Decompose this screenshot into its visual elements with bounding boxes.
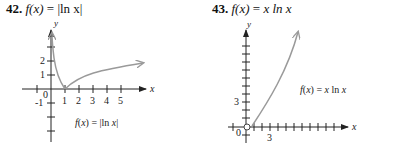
graph-43: y x 3 0 3 f(x) = x ln x [228, 19, 357, 143]
svg-text:4: 4 [104, 95, 109, 106]
y-axis-label: y [246, 19, 251, 29]
svg-text:3: 3 [90, 95, 95, 106]
graph-42: y x 2 1 0 -1 1 2 3 4 5 f(x) = |ln x| [22, 18, 155, 142]
svg-text:1: 1 [40, 69, 45, 80]
svg-text:3: 3 [267, 132, 272, 143]
graphs: y x 2 1 0 -1 1 2 3 4 5 f(x) = |ln x| [0, 0, 416, 147]
open-circle-origin [244, 124, 250, 130]
curve-abs-ln-right [65, 63, 143, 89]
curve-label: f(x) = x ln x [300, 84, 347, 96]
svg-text:-1: -1 [35, 97, 43, 108]
svg-text:0: 0 [43, 89, 48, 100]
curve-x-ln-x [252, 32, 298, 126]
svg-text:1: 1 [62, 95, 67, 106]
svg-text:3: 3 [234, 96, 239, 107]
curve-label: f(x) = |ln x| [75, 117, 118, 129]
svg-text:2: 2 [76, 95, 81, 106]
y-axis-label: y [53, 18, 58, 28]
x-axis-label: x [351, 121, 357, 132]
svg-text:5: 5 [118, 95, 123, 106]
curve-abs-ln-left [52, 33, 65, 89]
svg-text:2: 2 [40, 55, 45, 66]
x-axis-label: x [149, 83, 155, 94]
svg-text:0: 0 [236, 127, 241, 138]
